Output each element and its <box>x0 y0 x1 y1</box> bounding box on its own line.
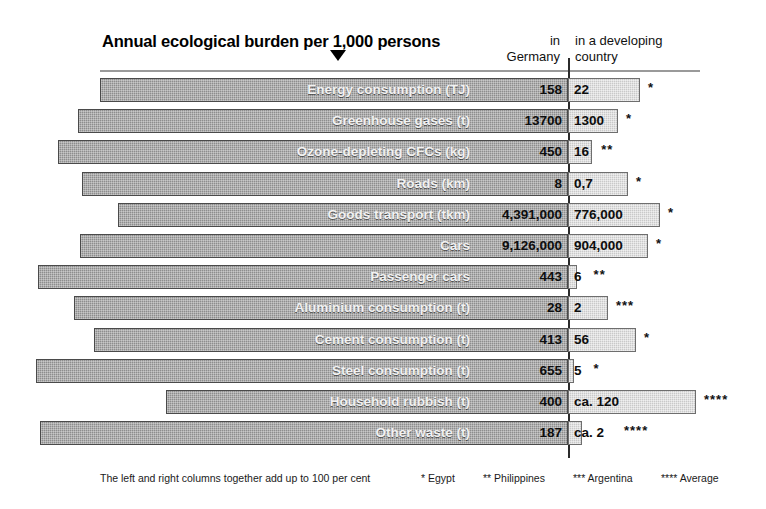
value-germany: 158 <box>470 78 562 102</box>
value-developing-country: 6 <box>574 265 582 289</box>
category-label: Roads (km) <box>88 172 470 196</box>
value-developing-country: ca. 120 <box>574 390 619 414</box>
category-label: Aluminium consumption (t) <box>80 296 470 320</box>
footnote-marker: **** <box>624 421 648 445</box>
value-germany: 655 <box>470 359 562 383</box>
category-label: Energy consumption (TJ) <box>106 78 470 102</box>
footnote-key-1-label: Egypt <box>428 472 455 484</box>
infographic-canvas: Annual ecological burden per 1,000 perso… <box>0 0 766 509</box>
footnote-key-1: * Egypt <box>421 472 455 484</box>
footnote-key-2: ** Philippines <box>483 472 545 484</box>
footer-note: The left and right columns together add … <box>100 472 370 484</box>
column-header-developing-country: in a developing country <box>575 33 705 65</box>
footnote-marker: *** <box>616 296 634 320</box>
value-germany: 8 <box>470 172 562 196</box>
title-pointer-triangle-icon <box>330 50 346 61</box>
category-label: Ozone-depleting CFCs (kg) <box>64 140 470 164</box>
bar-row: Cars9,126,000904,000* <box>0 234 766 258</box>
value-developing-country: 776,000 <box>574 203 623 227</box>
bar-row: Steel consumption (t)6555* <box>0 359 766 383</box>
footnote-key-4: **** Average <box>661 472 719 484</box>
footnote-key-2-label: Philippines <box>494 472 545 484</box>
page-title: Annual ecological burden per 1,000 perso… <box>102 32 440 51</box>
bar-row: Roads (km)80,7* <box>0 172 766 196</box>
value-developing-country: 22 <box>574 78 589 102</box>
footnote-marker: * <box>668 203 674 227</box>
value-developing-country: ca. 2 <box>574 421 604 445</box>
value-germany: 400 <box>470 390 562 414</box>
bar-row: Other waste (t)187ca. 2**** <box>0 421 766 445</box>
footnote-marker: * <box>656 234 662 258</box>
footnote-key-2-marks: ** <box>483 472 491 484</box>
bar-row: Energy consumption (TJ)15822* <box>0 78 766 102</box>
value-developing-country: 2 <box>574 296 582 320</box>
footnote-marker: * <box>636 172 642 196</box>
footnote-key-4-label: Average <box>680 472 719 484</box>
value-germany: 443 <box>470 265 562 289</box>
bar-row: Household rubbish (t)400ca. 120**** <box>0 390 766 414</box>
footnote-key-3: *** Argentina <box>573 472 633 484</box>
bar-row: Greenhouse gases (t)137001300* <box>0 109 766 133</box>
category-label: Passenger cars <box>44 265 470 289</box>
bar-row: Cement consumption (t)41356* <box>0 328 766 352</box>
value-developing-country: 16 <box>574 140 589 164</box>
category-label: Steel consumption (t) <box>42 359 470 383</box>
footnote-marker: ** <box>601 140 613 164</box>
footnote-key-1-marks: * <box>421 472 425 484</box>
value-germany: 4,391,000 <box>470 203 562 227</box>
category-label: Cars <box>86 234 470 258</box>
value-germany: 187 <box>470 421 562 445</box>
footnote-marker: * <box>594 359 600 383</box>
footnote-marker: **** <box>704 390 728 414</box>
bar-row: Ozone-depleting CFCs (kg)45016** <box>0 140 766 164</box>
column-header-developing-line1: in a developing <box>575 33 705 49</box>
value-germany: 28 <box>470 296 562 320</box>
value-developing-country: 5 <box>574 359 582 383</box>
footnote-key-3-label: Argentina <box>588 472 633 484</box>
footnote-marker: ** <box>594 265 606 289</box>
category-label: Household rubbish (t) <box>172 390 470 414</box>
column-header-developing-line2: country <box>575 49 705 65</box>
value-developing-country: 56 <box>574 328 589 352</box>
bar-row: Passenger cars4436** <box>0 265 766 289</box>
bar-row: Aluminium consumption (t)282*** <box>0 296 766 320</box>
category-label: Goods transport (tkm) <box>124 203 470 227</box>
value-developing-country: 1300 <box>574 109 604 133</box>
column-header-germany-line1: in <box>472 33 560 49</box>
bar-row: Goods transport (tkm)4,391,000776,000* <box>0 203 766 227</box>
value-germany: 450 <box>470 140 562 164</box>
footnote-key-4-marks: **** <box>661 472 677 484</box>
column-header-germany: in Germany <box>472 33 560 65</box>
footnote-marker: * <box>626 109 632 133</box>
value-developing-country: 904,000 <box>574 234 623 258</box>
footnote-key-3-marks: *** <box>573 472 585 484</box>
column-header-germany-line2: Germany <box>472 49 560 65</box>
value-germany: 13700 <box>470 109 562 133</box>
header-rule-divider <box>100 70 700 72</box>
category-label: Cement consumption (t) <box>100 328 470 352</box>
value-developing-country: 0,7 <box>574 172 593 196</box>
value-germany: 9,126,000 <box>470 234 562 258</box>
value-germany: 413 <box>470 328 562 352</box>
category-label: Other waste (t) <box>46 421 470 445</box>
category-label: Greenhouse gases (t) <box>84 109 470 133</box>
footnote-marker: * <box>648 78 654 102</box>
footnote-marker: * <box>644 328 650 352</box>
